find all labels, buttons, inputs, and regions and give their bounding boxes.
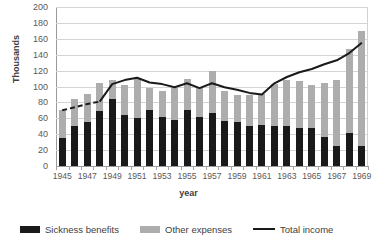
legend-item-total-income: Total income bbox=[253, 222, 333, 236]
legend-label: Other expenses bbox=[165, 224, 232, 235]
x-axis-tick bbox=[156, 166, 157, 170]
y-axis-tick-label: 160 bbox=[18, 34, 48, 44]
y-axis-tick-label: 180 bbox=[18, 18, 48, 28]
legend-swatch-black-line bbox=[253, 228, 275, 231]
x-axis-tick bbox=[56, 166, 57, 170]
x-axis-tick bbox=[231, 166, 232, 170]
x-axis-tick bbox=[118, 166, 119, 170]
x-axis-tick bbox=[331, 166, 332, 170]
legend-label: Sickness benefits bbox=[45, 224, 119, 235]
legend-swatch-gray-box bbox=[140, 226, 160, 233]
y-axis-tick-label: 0 bbox=[18, 161, 48, 171]
legend-item-other-expenses: Other expenses bbox=[140, 222, 232, 236]
x-axis-tick-labels: 1945194719491951195319551957195919611963… bbox=[0, 171, 377, 184]
x-axis-tick bbox=[318, 166, 319, 170]
x-axis-tick bbox=[93, 166, 94, 170]
x-axis-tick bbox=[168, 166, 169, 170]
y-axis-tick-label: 80 bbox=[18, 97, 48, 107]
x-axis-tick bbox=[343, 166, 344, 170]
y-axis-tick-label: 120 bbox=[18, 66, 48, 76]
legend-swatch-black-box bbox=[20, 226, 40, 233]
x-axis-tick bbox=[81, 166, 82, 170]
plot-area bbox=[56, 7, 368, 166]
x-axis-tick bbox=[143, 166, 144, 170]
x-axis-tick bbox=[206, 166, 207, 170]
x-axis-tick bbox=[193, 166, 194, 170]
line-segment-solid bbox=[100, 43, 362, 102]
x-axis-tick bbox=[69, 166, 70, 170]
y-axis-tick-label: 200 bbox=[18, 2, 48, 12]
x-axis-title: year bbox=[0, 188, 377, 198]
total-income-line bbox=[56, 7, 368, 166]
x-axis-tick bbox=[293, 166, 294, 170]
x-axis-tick bbox=[218, 166, 219, 170]
x-axis-tick bbox=[106, 166, 107, 170]
chart-legend: Sickness benefits Other expenses Total i… bbox=[0, 222, 377, 238]
x-axis-tick bbox=[256, 166, 257, 170]
line-segment-dashed bbox=[62, 102, 99, 111]
y-axis-tick-label: 140 bbox=[18, 50, 48, 60]
x-axis-ticks bbox=[56, 166, 368, 170]
legend-label: Total income bbox=[280, 224, 333, 235]
x-axis-tick bbox=[181, 166, 182, 170]
x-axis-tick bbox=[268, 166, 269, 170]
y-axis-tick-label: 40 bbox=[18, 129, 48, 139]
y-axis-tick-label: 100 bbox=[18, 82, 48, 92]
y-axis-tick-label: 20 bbox=[18, 145, 48, 155]
x-axis-tick bbox=[306, 166, 307, 170]
x-axis-tick bbox=[356, 166, 357, 170]
y-axis-tick-label: 60 bbox=[18, 113, 48, 123]
x-axis-tick bbox=[131, 166, 132, 170]
legend-item-sickness-benefits: Sickness benefits bbox=[20, 222, 119, 236]
x-axis-tick bbox=[368, 166, 369, 170]
x-axis-tick bbox=[243, 166, 244, 170]
x-axis-tick-label: 1969 bbox=[347, 171, 377, 181]
x-axis-tick bbox=[281, 166, 282, 170]
chart-container: Thousands 020406080100120140160180200 19… bbox=[0, 0, 377, 250]
